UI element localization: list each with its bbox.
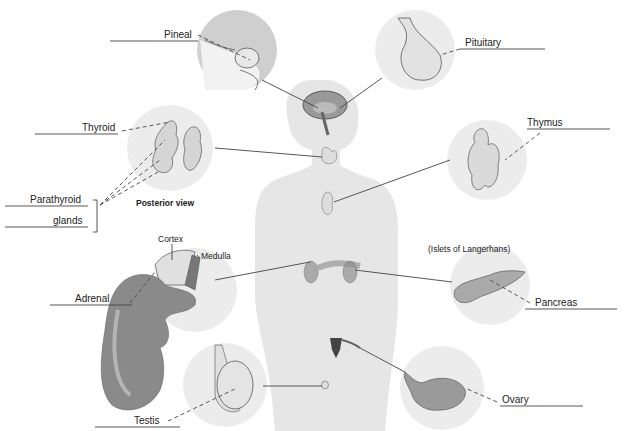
label-parathyroid: Parathyroid: [30, 194, 81, 206]
thyroid-inset: [127, 105, 213, 191]
label-testis: Testis: [134, 415, 160, 427]
label-adrenal: Adrenal: [75, 293, 109, 305]
label-thyroid: Thyroid: [82, 122, 115, 134]
label-pineal: Pineal: [164, 29, 192, 41]
endocrine-diagram: [0, 0, 627, 431]
thymus-small-icon: [322, 192, 333, 214]
testis-small-icon: [322, 381, 329, 389]
label-ovary: Ovary: [502, 394, 529, 406]
thymus-inset: [447, 120, 527, 200]
ovary-inset: [400, 346, 484, 430]
label-cortex: Cortex: [158, 233, 183, 245]
label-posterior-view: Posterior view: [136, 197, 194, 209]
label-islets: (Islets of Langerhans): [428, 243, 510, 255]
label-pituitary: Pituitary: [465, 37, 501, 49]
label-thymus: Thymus: [527, 117, 563, 129]
pituitary-inset: [375, 10, 455, 90]
label-pancreas: Pancreas: [535, 297, 577, 309]
pancreas-inset: [450, 245, 530, 325]
testis-inset: [183, 343, 267, 427]
pineal-inset: [197, 10, 277, 90]
label-glands: glands: [53, 215, 82, 227]
label-medulla: Medulla: [201, 250, 231, 262]
